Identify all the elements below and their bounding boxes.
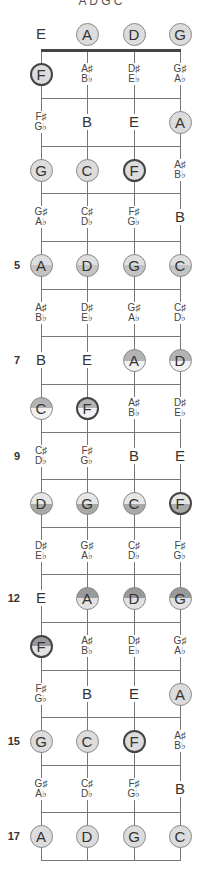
note-position: D♯E♭ (114, 626, 154, 666)
highlighted-note-circle: G (169, 23, 192, 46)
highlighted-note-circle: C (30, 397, 53, 420)
note-position: F♯G♭ (21, 674, 61, 714)
note-position: C♯D♭ (160, 293, 200, 333)
note-position: C♯D♭ (114, 531, 154, 571)
flat-name: G♭ (35, 122, 48, 132)
note-position: B (67, 102, 107, 142)
note-position: E (21, 578, 61, 618)
note-position: D♯E♭ (160, 388, 200, 428)
note-position: A (67, 14, 107, 54)
note-position: F♯G♭ (21, 102, 61, 142)
highlighted-note-circle: G (169, 587, 192, 610)
flat-name: E♭ (35, 551, 47, 561)
note-position: F♯G♭ (114, 197, 154, 237)
accidental-note-label: C♯D♭ (128, 540, 140, 562)
note-position: D (160, 340, 200, 380)
accidental-note-label: C♯D♭ (174, 302, 186, 324)
highlighted-note-circle: F (76, 397, 99, 420)
note-position: E (21, 14, 61, 54)
highlighted-note-circle: G (30, 159, 53, 182)
fret-number: 5 (4, 257, 20, 273)
note-position: A (114, 340, 154, 380)
note-position: A♯B♭ (67, 54, 107, 94)
highlighted-note-circle: C (169, 254, 192, 277)
natural-note-label: B (81, 114, 93, 130)
flat-name: G♭ (35, 694, 48, 704)
natural-note-label: B (128, 448, 140, 464)
fret-number: 15 (4, 733, 20, 749)
accidental-note-label: D♯E♭ (128, 63, 140, 85)
note-position: D (67, 245, 107, 285)
highlighted-note-circle: C (76, 730, 99, 753)
natural-note-label: B (174, 781, 186, 797)
note-position: B (67, 674, 107, 714)
note-position: D (114, 578, 154, 618)
accidental-note-label: C♯D♭ (81, 206, 93, 228)
note-position: A (21, 245, 61, 285)
fret-line (41, 479, 181, 480)
flat-name: E♭ (81, 313, 93, 323)
accidental-note-label: A♯B♭ (174, 159, 186, 181)
highlighted-note-circle: A (169, 683, 192, 706)
flat-name: A♭ (81, 551, 93, 561)
fret-number: 7 (4, 352, 20, 368)
highlighted-note-circle: A (123, 349, 146, 372)
note-position: G (114, 245, 154, 285)
note-position: C (67, 150, 107, 190)
fret-number: 12 (4, 590, 20, 606)
accidental-note-label: F♯G♭ (128, 206, 141, 228)
note-position: C (21, 388, 61, 428)
flat-name: A♭ (35, 217, 47, 227)
accidental-note-label: F♯G♭ (81, 445, 94, 467)
highlighted-note-circle: C (169, 825, 192, 848)
flat-name: D♭ (174, 313, 186, 323)
highlighted-note-circle: D (123, 587, 146, 610)
note-position: A♯B♭ (160, 150, 200, 190)
flat-name: A♭ (128, 313, 140, 323)
note-position: C (160, 816, 200, 856)
note-position: C (114, 483, 154, 523)
note-position: F (114, 150, 154, 190)
accidental-note-label: G♯A♭ (35, 778, 48, 800)
flat-name: A♭ (35, 789, 47, 799)
note-position: E (67, 340, 107, 380)
highlighted-note-circle: D (123, 23, 146, 46)
note-position: F (21, 626, 61, 666)
note-position: B (114, 436, 154, 476)
flat-name: B♭ (174, 170, 186, 180)
fret-line (41, 574, 181, 575)
highlighted-note-circle: G (76, 492, 99, 515)
fret-line (41, 860, 181, 861)
accidental-note-label: F♯G♭ (35, 683, 48, 705)
fretboard-diagram: A D G C EADGFA♯B♭D♯E♭G♯A♭F♯G♭BEAGCFA♯B♭G… (0, 0, 201, 875)
note-position: C (67, 721, 107, 761)
flat-name: B♭ (81, 74, 93, 84)
fret-line (41, 717, 181, 718)
diagram-title: A D G C (0, 0, 201, 6)
highlighted-note-circle: D (76, 254, 99, 277)
accidental-note-label: F♯G♭ (35, 111, 48, 133)
flat-name: B♭ (81, 646, 93, 656)
note-position: E (114, 102, 154, 142)
note-position: A♯B♭ (67, 626, 107, 666)
highlighted-note-circle: D (76, 825, 99, 848)
fret-line (41, 670, 181, 671)
accidental-note-label: D♯E♭ (128, 635, 140, 657)
note-position: D♯E♭ (114, 54, 154, 94)
note-position: D♯E♭ (21, 531, 61, 571)
highlighted-note-circle: D (169, 349, 192, 372)
accidental-note-label: F♯G♭ (128, 778, 141, 800)
highlighted-note-circle: D (30, 492, 53, 515)
flat-name: G♭ (128, 789, 141, 799)
highlighted-note-circle: G (123, 825, 146, 848)
accidental-note-label: G♯A♭ (174, 635, 187, 657)
highlighted-note-circle: A (169, 111, 192, 134)
fret-line (41, 527, 181, 528)
note-position: A (160, 674, 200, 714)
highlighted-note-circle: F (30, 63, 53, 86)
note-position: G (21, 721, 61, 761)
flat-name: E♭ (128, 74, 140, 84)
note-position: G (114, 816, 154, 856)
note-position: B (160, 197, 200, 237)
accidental-note-label: G♯A♭ (81, 540, 94, 562)
